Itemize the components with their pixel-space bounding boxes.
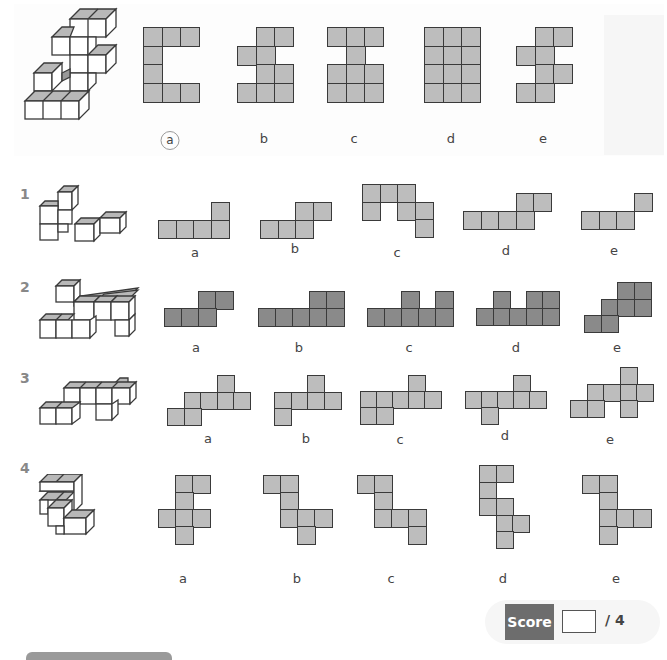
- net-square: [581, 211, 600, 230]
- question-1-option-label-e[interactable]: e: [604, 243, 624, 258]
- question-4-option-label-b[interactable]: b: [287, 571, 307, 586]
- net-square: [408, 526, 427, 545]
- net-square: [461, 27, 481, 47]
- net-square: [601, 299, 619, 317]
- net-square: [542, 291, 560, 309]
- question-4-option-label-a[interactable]: a: [173, 571, 193, 586]
- net-square: [263, 475, 282, 494]
- question-2-option-label-c[interactable]: c: [399, 340, 419, 355]
- net-square: [601, 315, 619, 333]
- question-2-option-label-b[interactable]: b: [289, 340, 309, 355]
- net-square: [533, 193, 552, 212]
- net-square: [260, 220, 279, 239]
- net-square: [570, 400, 588, 418]
- net-square: [496, 515, 514, 533]
- net-square: [443, 64, 463, 84]
- net-square: [584, 315, 602, 333]
- net-square: [198, 291, 217, 310]
- net-square: [542, 308, 560, 326]
- net-square: [529, 391, 547, 409]
- score-input[interactable]: [562, 610, 596, 633]
- net-square: [181, 308, 200, 327]
- score-total: / 4: [605, 612, 625, 628]
- net-square: [634, 299, 652, 317]
- question-3-option-label-a[interactable]: a: [198, 431, 218, 446]
- net-square: [274, 83, 294, 103]
- question-2-option-label-a[interactable]: a: [186, 340, 206, 355]
- net-square: [397, 202, 416, 221]
- net-square: [167, 408, 185, 426]
- net-square: [443, 46, 463, 66]
- example-option-label-e[interactable]: e: [533, 131, 553, 146]
- net-square: [599, 211, 618, 230]
- example-3d-figure: [20, 6, 125, 126]
- net-square: [275, 308, 294, 327]
- net-square: [175, 526, 194, 545]
- net-square: [418, 308, 437, 327]
- question-3-option-label-d[interactable]: d: [495, 428, 515, 443]
- example-option-label-c[interactable]: c: [344, 131, 364, 146]
- net-square: [256, 64, 276, 84]
- net-square: [516, 83, 536, 103]
- net-square: [180, 27, 200, 47]
- bottom-tab: [26, 652, 172, 660]
- question-4-option-label-d[interactable]: d: [493, 571, 513, 586]
- question-3-option-label-c[interactable]: c: [390, 432, 410, 447]
- question-4-option-label-c[interactable]: c: [381, 571, 401, 586]
- net-square: [496, 498, 514, 516]
- net-square: [401, 308, 420, 327]
- net-square: [616, 509, 635, 528]
- net-square: [408, 391, 426, 409]
- net-square: [143, 64, 163, 84]
- question-3-option-label-e[interactable]: e: [600, 432, 620, 447]
- example-option-label-b[interactable]: b: [254, 131, 274, 146]
- question-1-option-label-c[interactable]: c: [387, 245, 407, 260]
- net-square: [465, 391, 483, 409]
- net-square: [493, 308, 511, 326]
- net-square: [392, 391, 410, 409]
- net-square: [603, 384, 621, 402]
- question-1-option-label-a[interactable]: a: [185, 245, 205, 260]
- question-3-option-label-b[interactable]: b: [296, 431, 316, 446]
- net-square: [513, 375, 531, 393]
- question-2-3d-figure: [38, 276, 140, 342]
- net-square: [314, 509, 333, 528]
- net-square: [553, 64, 573, 84]
- example-option-label-d[interactable]: d: [441, 131, 461, 146]
- net-square: [164, 308, 183, 327]
- net-square: [424, 27, 444, 47]
- net-square: [280, 475, 299, 494]
- net-square: [461, 46, 481, 66]
- net-square: [278, 220, 297, 239]
- net-square: [364, 64, 384, 84]
- net-square: [535, 46, 555, 66]
- net-square: [415, 202, 434, 221]
- net-square: [324, 392, 342, 410]
- example-option-label-a[interactable]: a: [161, 131, 180, 150]
- net-square: [516, 46, 536, 66]
- question-2-option-label-e[interactable]: e: [607, 340, 627, 355]
- net-square: [391, 509, 410, 528]
- question-2-option-label-d[interactable]: d: [506, 340, 526, 355]
- question-4-option-label-e[interactable]: e: [606, 571, 626, 586]
- net-square: [256, 83, 276, 103]
- net-square: [200, 392, 218, 410]
- net-square: [198, 308, 217, 327]
- net-square: [313, 202, 332, 221]
- net-square: [587, 400, 605, 418]
- net-square: [291, 392, 309, 410]
- question-1-option-label-d[interactable]: d: [496, 243, 516, 258]
- net-square: [599, 526, 618, 545]
- net-square: [217, 392, 235, 410]
- net-square: [617, 299, 635, 317]
- net-square: [509, 308, 527, 326]
- net-square: [553, 27, 573, 47]
- net-square: [292, 308, 311, 327]
- question-1-option-label-b[interactable]: b: [285, 241, 305, 256]
- net-square: [435, 308, 454, 327]
- net-square: [175, 475, 194, 494]
- net-square: [280, 492, 299, 511]
- net-square: [479, 465, 497, 483]
- net-square: [297, 526, 316, 545]
- net-square: [424, 46, 444, 66]
